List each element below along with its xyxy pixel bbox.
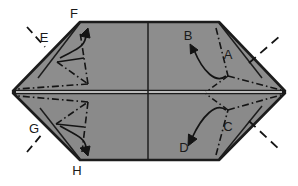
label-G: G bbox=[29, 121, 39, 136]
figure-canvas: A B C D E F G H bbox=[0, 0, 298, 186]
label-C: C bbox=[223, 119, 232, 134]
label-H: H bbox=[72, 163, 81, 178]
label-E: E bbox=[40, 30, 49, 45]
label-A: A bbox=[224, 47, 233, 62]
label-D: D bbox=[179, 140, 188, 155]
origami-folding-diagram: A B C D E F G H bbox=[0, 0, 298, 186]
label-B: B bbox=[184, 28, 193, 43]
label-F: F bbox=[70, 6, 78, 21]
